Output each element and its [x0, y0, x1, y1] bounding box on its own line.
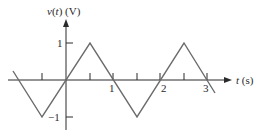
- triangular-wave-chart: v(t) (V) 1 −1 1 2 3 t (s): [0, 0, 258, 134]
- x-axis-label: t (s): [236, 74, 254, 87]
- x-tick-label-2: 2: [161, 82, 167, 94]
- y-axis-arrow-icon: [63, 19, 69, 27]
- x-axis-arrow-icon: [224, 77, 232, 83]
- y-axis-label: v(t) (V): [47, 5, 81, 18]
- x-tick-label-3: 3: [203, 82, 209, 94]
- y-tick-label-1: 1: [57, 37, 63, 49]
- y-tick-label-neg1: −1: [48, 111, 60, 123]
- x-tick-label-1: 1: [109, 82, 115, 94]
